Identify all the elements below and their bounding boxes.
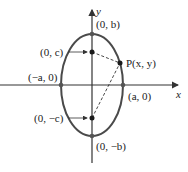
vertex-right-dot	[121, 83, 126, 88]
vertex-right-label: (a, 0)	[128, 90, 151, 102]
focus-lower-dot	[90, 116, 95, 121]
vertex-bottom-label: (0, −b)	[96, 140, 126, 152]
point-p-label: P(x, y)	[126, 57, 156, 69]
x-axis-label: x	[176, 88, 181, 100]
y-axis-label: y	[96, 5, 101, 17]
vertex-left-dot	[59, 83, 64, 88]
vertex-bottom-dot	[90, 134, 95, 139]
vertex-top-label: (0, b)	[96, 18, 120, 30]
focus-upper-label: (0, c)	[40, 46, 63, 58]
focus-lower-label: (0, −c)	[34, 112, 63, 124]
vertex-left-label: (−a, 0)	[28, 71, 57, 83]
focal-radius-lower	[92, 63, 120, 118]
focus-upper-dot	[90, 50, 95, 55]
vertex-top-dot	[90, 32, 95, 37]
ellipse-diagram	[0, 0, 188, 172]
point-p-dot	[118, 61, 123, 66]
